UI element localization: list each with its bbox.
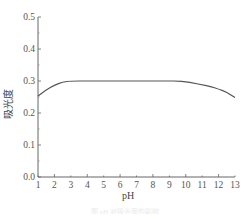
y-axis-title: 吸光度 — [2, 89, 14, 119]
y-tick-label: 0.3 — [23, 76, 35, 86]
y-tick-label: 0.0 — [23, 172, 35, 182]
figure-caption: 图 pH 对吸光度的影响 — [40, 206, 210, 214]
x-tick-label: 11 — [198, 180, 207, 190]
chart-canvas: 12345678910111213 0.00.10.20.30.40.5 pH … — [0, 0, 248, 219]
x-axis-title: pH — [122, 190, 134, 201]
x-tick-labels: 12345678910111213 — [36, 180, 240, 190]
x-tick-label: 6 — [118, 180, 123, 190]
x-tick-label: 13 — [230, 180, 240, 190]
y-tick-label: 0.1 — [23, 140, 35, 150]
y-tick-label: 0.5 — [23, 12, 35, 22]
tick-marks — [38, 17, 235, 177]
x-tick-label: 1 — [36, 180, 41, 190]
x-tick-label: 7 — [134, 180, 139, 190]
x-tick-label: 9 — [167, 180, 172, 190]
y-tick-label: 0.4 — [23, 44, 35, 54]
y-tick-labels: 0.00.10.20.30.40.5 — [23, 12, 35, 182]
y-tick-label: 0.2 — [23, 108, 35, 118]
x-tick-label: 5 — [101, 180, 106, 190]
absorbance-curve — [38, 81, 235, 98]
x-tick-label: 12 — [214, 180, 224, 190]
x-tick-label: 2 — [52, 180, 57, 190]
axes — [38, 17, 235, 177]
x-tick-label: 3 — [68, 180, 73, 190]
x-tick-label: 10 — [181, 180, 191, 190]
x-tick-label: 4 — [85, 180, 90, 190]
x-tick-label: 8 — [151, 180, 156, 190]
